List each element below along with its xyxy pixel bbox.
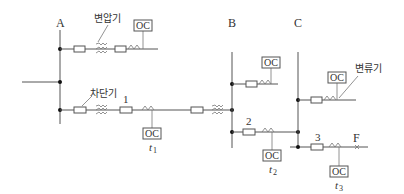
branch-c-fault: 3 OC t 3 F (290, 131, 368, 193)
breaker-1-number: 1 (123, 93, 129, 105)
branch-b-c: 2 OC t 2 (230, 115, 300, 177)
ct-icon (329, 143, 341, 147)
ct-icon (259, 80, 271, 84)
svg-text:OC: OC (145, 128, 159, 139)
breaker-3 (311, 144, 323, 150)
breaker-b-in (191, 107, 203, 113)
breaker-2-number: 2 (246, 115, 252, 127)
bus-a: A (56, 16, 65, 124)
svg-text:OC: OC (265, 150, 279, 161)
transformer-label: 변압기 (94, 12, 121, 24)
svg-text:OC: OC (136, 20, 150, 31)
branch-a-b: 차단기 1 OC t 1 (58, 88, 234, 155)
svg-text:OC: OC (332, 166, 346, 177)
breaker-label: 차단기 (90, 88, 117, 99)
branch-c-top: OC 변류기 (296, 63, 382, 103)
breaker-1 (120, 107, 132, 113)
bus-c: C (294, 16, 302, 148)
breaker-c-top (311, 97, 322, 103)
junction-a-mid (58, 80, 62, 84)
ct-icon (128, 45, 140, 49)
branch-b-top: OC (230, 57, 280, 87)
breaker-a-top-1 (74, 46, 85, 52)
bus-b-label: B (228, 16, 236, 30)
svg-text:1: 1 (153, 146, 157, 155)
breaker-2 (243, 129, 255, 135)
bus-c-label: C (294, 16, 302, 30)
fault-label: F (353, 131, 360, 145)
breaker-b-top (246, 81, 257, 87)
ct-icon (324, 96, 336, 100)
ct-icon (262, 128, 274, 132)
bus-a-label: A (56, 16, 65, 30)
branch-a-top: OC 변압기 (58, 12, 158, 53)
bus-b: B (228, 16, 236, 148)
breaker-3-number: 3 (315, 131, 321, 143)
transformer-icon (96, 43, 107, 53)
ct-icon (142, 106, 154, 110)
power-system-diagram: A OC 변압기 차단기 1 (0, 0, 404, 194)
breaker-a-low (74, 107, 86, 113)
svg-text:3: 3 (339, 184, 343, 193)
svg-text:2: 2 (273, 168, 277, 177)
svg-text:OC: OC (330, 72, 344, 83)
breaker-a-top-2 (115, 46, 126, 52)
svg-text:OC: OC (264, 57, 278, 68)
current-transformer-label: 변류기 (355, 63, 382, 74)
